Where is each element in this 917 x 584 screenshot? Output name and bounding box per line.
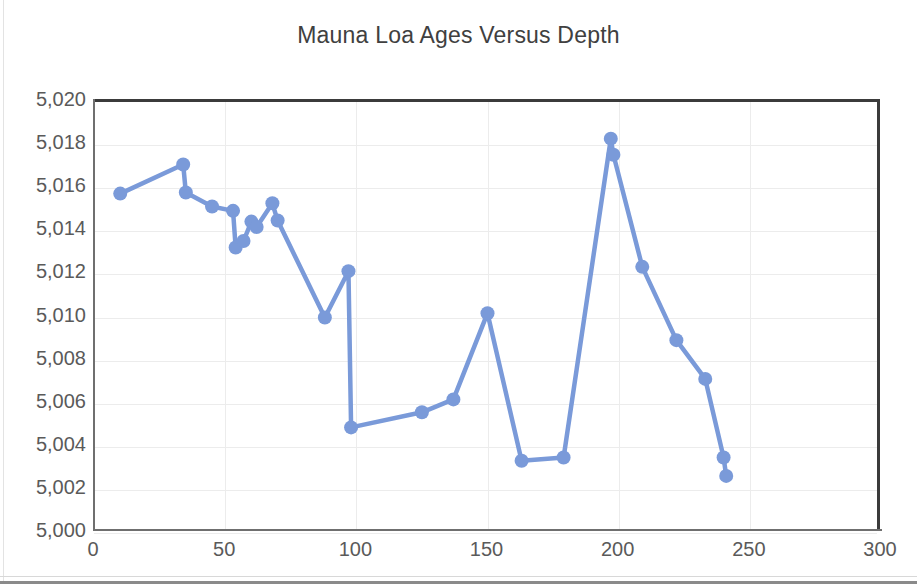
x-axis-tick-label: 100: [339, 538, 372, 561]
data-point-marker: [606, 148, 620, 162]
y-axis-tick-label: 5,008: [2, 346, 86, 369]
x-axis-tick-label: 50: [213, 538, 235, 561]
y-axis-tick-label: 5,012: [2, 260, 86, 283]
data-series-line: [94, 102, 881, 533]
data-point-marker: [176, 157, 190, 171]
data-point-marker: [669, 333, 683, 347]
data-point-marker: [179, 186, 193, 200]
gridline: [94, 533, 877, 534]
data-point-marker: [265, 196, 279, 210]
data-point-marker: [415, 405, 429, 419]
data-point-marker: [604, 132, 618, 146]
y-axis-tick-label: 5,010: [2, 303, 86, 326]
x-axis-tick-label: 250: [732, 538, 765, 561]
y-axis-line: [93, 99, 95, 530]
x-axis-tick-label: 0: [87, 538, 98, 561]
data-point-marker: [226, 204, 240, 218]
data-point-marker: [271, 214, 285, 228]
x-axis-tick-label: 200: [601, 538, 634, 561]
data-point-marker: [344, 420, 358, 434]
y-axis-tick-label: 5,020: [2, 88, 86, 111]
data-point-marker: [237, 234, 251, 248]
y-axis-tick-label: 5,014: [2, 217, 86, 240]
data-point-marker: [113, 187, 127, 201]
y-axis-tick-labels: 5,0205,0185,0165,0145,0125,0105,0085,006…: [0, 0, 86, 584]
y-axis-tick-label: 5,018: [2, 131, 86, 154]
data-point-marker: [318, 311, 332, 325]
data-point-marker: [341, 264, 355, 278]
chart-container: Mauna Loa Ages Versus Depth 5,0205,0185,…: [0, 0, 917, 584]
data-point-marker: [717, 451, 731, 465]
data-point-marker: [698, 372, 712, 386]
data-point-marker: [250, 220, 264, 234]
data-point-marker: [446, 392, 460, 406]
x-axis-tick-label: 300: [863, 538, 896, 561]
x-axis-line: [93, 529, 882, 531]
data-point-marker: [635, 260, 649, 274]
y-axis-tick-label: 5,016: [2, 174, 86, 197]
chart-title: Mauna Loa Ages Versus Depth: [0, 22, 917, 49]
y-axis-tick-label: 5,000: [2, 519, 86, 542]
data-point-marker: [557, 451, 571, 465]
y-axis-tick-label: 5,004: [2, 432, 86, 455]
y-axis-tick-label: 5,002: [2, 475, 86, 498]
data-point-marker: [719, 469, 733, 483]
data-point-marker: [515, 454, 529, 468]
series-line: [120, 139, 726, 476]
data-point-marker: [481, 306, 495, 320]
plot-area: [93, 99, 880, 530]
y-axis-tick-label: 5,006: [2, 389, 86, 412]
x-axis-tick-label: 150: [470, 538, 503, 561]
data-point-marker: [205, 200, 219, 214]
